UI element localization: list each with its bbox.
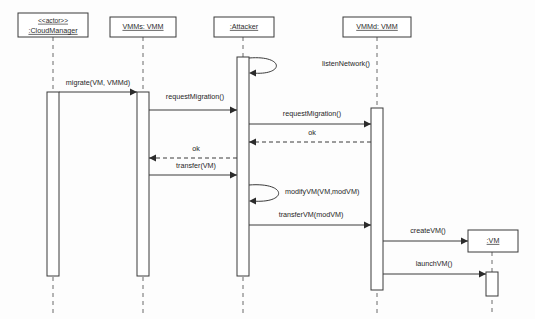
- sequence-diagram: <<actor>> :CloudManager VMMs: VMM :Attac…: [0, 0, 535, 319]
- message-label-requestmigration-2: requestMigration(): [283, 109, 341, 118]
- message-listennetwork[interactable]: listenNetwork(): [249, 58, 370, 77]
- message-label-createvm: createVM(): [410, 226, 446, 235]
- lifeline-label-vm: :VM: [487, 236, 500, 245]
- lifeline-header-vmms[interactable]: VMMs: VMM: [110, 17, 176, 37]
- arrow-head-launchvm: [479, 271, 486, 278]
- activation-bar-attacker: [237, 57, 249, 276]
- lifeline-header-cloudmanager[interactable]: <<actor>> :CloudManager: [18, 13, 88, 37]
- message-label-ok-2: ok: [192, 144, 200, 153]
- activation-bar-vm: [486, 272, 498, 296]
- message-ok-2[interactable]: ok: [149, 144, 237, 161]
- message-label-transfervm: transferVM(modVM): [279, 210, 344, 219]
- arrow-head-ok-2: [149, 155, 156, 162]
- activation-bar-cloudmanager: [47, 92, 59, 276]
- arrow-head-migrate: [130, 89, 137, 96]
- activation-bar-vmmd: [371, 108, 383, 290]
- lifeline-label-cloudmanager: :CloudManager: [28, 26, 78, 35]
- arrow-head-modifyvm: [249, 198, 256, 205]
- lifeline-header-vmmd[interactable]: VMMd: VMM: [343, 17, 411, 37]
- lifeline-headers: <<actor>> :CloudManager VMMs: VMM :Attac…: [18, 13, 518, 252]
- message-label-transfer: transfer(VM): [176, 161, 216, 170]
- message-label-ok-1: ok: [308, 128, 316, 137]
- lifeline-label-vmmd: VMMd: VMM: [356, 22, 398, 31]
- lifeline-header-attacker[interactable]: :Attacker: [214, 17, 274, 37]
- message-label-modifyvm: modifyVM(VM,modVM): [285, 187, 359, 196]
- activation-bar-vmms: [137, 92, 149, 276]
- arrow-head-createvm: [461, 238, 468, 245]
- message-ok-1[interactable]: ok: [249, 128, 371, 145]
- message-launchvm[interactable]: launchVM(): [383, 259, 486, 277]
- message-transfer[interactable]: transfer(VM): [149, 161, 237, 178]
- lifeline-header-vm[interactable]: :VM: [468, 230, 518, 252]
- message-label-launchvm: launchVM(): [416, 259, 453, 268]
- message-migrate[interactable]: migrate(VM, VMMd): [59, 78, 137, 95]
- message-transfervm[interactable]: transferVM(modVM): [249, 210, 371, 228]
- message-modifyvm[interactable]: modifyVM(VM,modVM): [249, 185, 359, 205]
- message-line-listennetwork: [249, 58, 276, 74]
- message-requestmigration-1[interactable]: requestMigration(): [149, 92, 237, 113]
- message-line-modifyvm: [249, 185, 279, 202]
- diagram-canvas: <<actor>> :CloudManager VMMs: VMM :Attac…: [0, 0, 535, 319]
- message-label-listennetwork: listenNetwork(): [322, 59, 370, 68]
- lifeline-label-attacker: :Attacker: [230, 22, 259, 31]
- message-label-migrate: migrate(VM, VMMd): [66, 78, 130, 87]
- message-label-requestmigration-1: requestMigration(): [166, 92, 224, 101]
- lifeline-stereotype-cloudmanager: <<actor>>: [38, 17, 68, 24]
- arrow-head-requestmigration-2: [364, 121, 371, 128]
- message-requestmigration-2[interactable]: requestMigration(): [249, 109, 371, 127]
- arrow-head-transfer: [230, 172, 237, 179]
- messages: migrate(VM, VMMd) listenNetwork() reques…: [59, 58, 486, 278]
- lifeline-label-vmms: VMMs: VMM: [122, 22, 163, 31]
- arrow-head-ok-1: [249, 139, 256, 146]
- message-createvm[interactable]: createVM(): [383, 226, 468, 244]
- arrow-head-transfervm: [364, 222, 371, 229]
- arrow-head-requestmigration-1: [230, 107, 237, 114]
- arrow-head-listennetwork: [249, 70, 256, 77]
